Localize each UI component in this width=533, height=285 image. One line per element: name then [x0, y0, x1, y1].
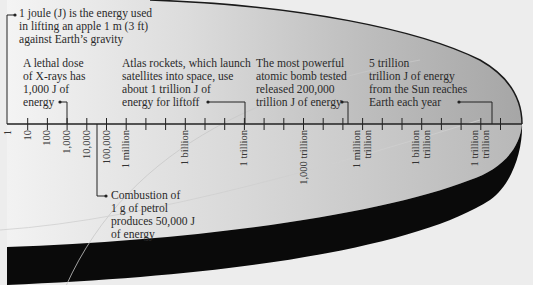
- tick-label: 1 million: [120, 130, 131, 220]
- tick-label: 10,000: [81, 130, 92, 220]
- tick-label: 1 billion: [179, 130, 190, 220]
- tick-label: 1,000 trillion: [298, 130, 309, 220]
- tick-label: 1,000: [61, 130, 72, 220]
- annotation-joule: 1 joule (J) is the energy used in liftin…: [19, 7, 152, 46]
- energy-scale-diagram: 1 joule (J) is the energy used in liftin…: [0, 0, 533, 285]
- tick-label: 100,000: [101, 130, 112, 220]
- tick-label: 100: [41, 130, 52, 220]
- annotation-atlas: Atlas rockets, which launch satellites i…: [122, 57, 251, 109]
- tick-label: 1 million trillion: [351, 130, 373, 220]
- annotation-bomb: The most powerful atomic bomb tested rel…: [256, 57, 347, 109]
- annotation-xrays: A lethal dose of X-rays has 1,000 J of e…: [23, 57, 85, 109]
- tick-label: 1: [2, 130, 13, 220]
- tick-label: 1 trillion: [238, 130, 249, 220]
- tick-label: 1 trillion trillion: [469, 130, 491, 220]
- tick-label: 1 billion trillion: [410, 130, 432, 220]
- tick-label: 10: [22, 130, 33, 220]
- annotation-sun: 5 trillion trillion J of energy from the…: [369, 57, 467, 109]
